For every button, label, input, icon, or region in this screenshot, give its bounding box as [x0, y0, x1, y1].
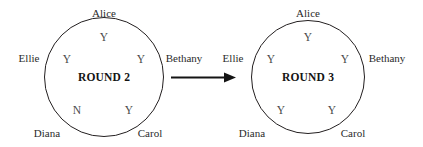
participant-label-carol-round2: Carol — [138, 128, 162, 139]
arrow-right-icon — [170, 69, 238, 86]
participant-label-diana-round2: Diana — [34, 128, 60, 139]
vote-mark-carol-round3: Y — [328, 105, 336, 117]
participant-label-bethany-round3: Bethany — [369, 53, 406, 64]
vote-mark-ellie-round2: Y — [63, 54, 71, 66]
participant-label-carol-round3: Carol — [341, 128, 365, 139]
vote-mark-alice-round3: Y — [304, 32, 312, 44]
round-circle-3 — [251, 20, 365, 134]
participant-label-alice-round3: Alice — [296, 8, 320, 19]
participant-label-bethany-round2: Bethany — [166, 53, 203, 64]
voting-rounds-diagram: ROUND 2 Alice Y Bethany Y Carol Y Diana … — [0, 0, 423, 147]
vote-mark-ellie-round3: Y — [267, 54, 275, 66]
vote-mark-carol-round2: Y — [125, 105, 133, 117]
round-circle-2 — [44, 17, 164, 137]
participant-label-ellie-round3: Ellie — [223, 53, 244, 64]
participant-label-alice-round2: Alice — [92, 8, 116, 19]
vote-mark-bethany-round2: Y — [137, 54, 145, 66]
transition-arrow — [170, 69, 238, 86]
vote-mark-alice-round2: Y — [100, 32, 108, 44]
participant-label-ellie-round2: Ellie — [19, 53, 40, 64]
vote-mark-diana-round3: Y — [277, 105, 285, 117]
vote-mark-diana-round2: N — [73, 105, 81, 117]
round-title-3: ROUND 3 — [282, 71, 334, 83]
vote-mark-bethany-round3: Y — [341, 54, 349, 66]
round-title-2: ROUND 2 — [78, 71, 130, 83]
participant-label-diana-round3: Diana — [239, 128, 265, 139]
